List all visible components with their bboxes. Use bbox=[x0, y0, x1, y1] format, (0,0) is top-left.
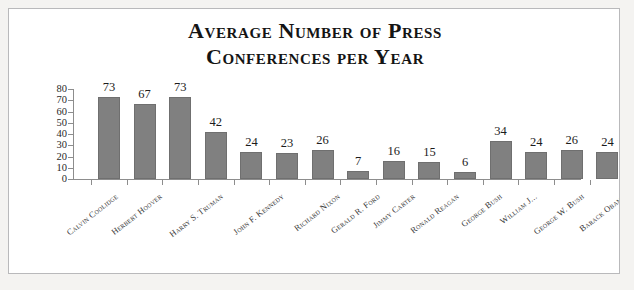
bar[interactable] bbox=[525, 152, 547, 179]
x-axis-tick-mark bbox=[269, 180, 270, 185]
bar-value-label: 24 bbox=[587, 136, 620, 149]
bar-value-label: 73 bbox=[160, 81, 200, 94]
plot-area: 80706050403020100 7367734224232671615634… bbox=[9, 9, 620, 274]
y-axis-tick-mark bbox=[68, 134, 73, 135]
y-axis-tick-label: 40 bbox=[45, 129, 67, 139]
bar-value-label: 26 bbox=[552, 134, 592, 147]
x-axis-line bbox=[73, 179, 581, 180]
bar-value-label: 16 bbox=[374, 145, 414, 158]
bar[interactable] bbox=[347, 171, 369, 179]
bar[interactable] bbox=[240, 152, 262, 179]
bar-value-label: 34 bbox=[481, 125, 521, 138]
bar[interactable] bbox=[383, 161, 405, 179]
bar[interactable] bbox=[561, 150, 583, 179]
bar[interactable] bbox=[454, 172, 476, 179]
y-axis-tick-mark bbox=[68, 100, 73, 101]
y-axis-tick-label: 0 bbox=[45, 174, 67, 184]
x-axis-tick-mark bbox=[518, 180, 519, 185]
x-axis-tick-mark bbox=[234, 180, 235, 185]
y-axis-tick-mark bbox=[68, 157, 73, 158]
x-axis-tick-mark bbox=[127, 180, 128, 185]
y-axis-tick-label: 30 bbox=[45, 140, 67, 150]
bar-value-label: 24 bbox=[231, 136, 271, 149]
bar-value-label: 23 bbox=[267, 137, 307, 150]
bar[interactable] bbox=[169, 97, 191, 179]
x-axis-tick-mark bbox=[554, 180, 555, 185]
y-axis-tick-mark bbox=[68, 89, 73, 90]
y-axis-tick-mark bbox=[68, 168, 73, 169]
bar-value-label: 67 bbox=[125, 88, 165, 101]
x-axis-tick-mark bbox=[162, 180, 163, 185]
y-axis-tick-label: 10 bbox=[45, 163, 67, 173]
y-axis-tick-mark bbox=[68, 123, 73, 124]
bar[interactable] bbox=[134, 104, 156, 179]
bar-value-label: 24 bbox=[516, 136, 556, 149]
bar-value-label: 15 bbox=[409, 146, 449, 159]
y-axis-tick-mark bbox=[68, 112, 73, 113]
y-axis-tick-label: 60 bbox=[45, 107, 67, 117]
bar[interactable] bbox=[276, 153, 298, 179]
bar[interactable] bbox=[418, 162, 440, 179]
bar-value-label: 7 bbox=[338, 155, 378, 168]
bar[interactable] bbox=[98, 97, 120, 179]
bar[interactable] bbox=[596, 152, 618, 179]
x-axis-tick-mark bbox=[305, 180, 306, 185]
bar[interactable] bbox=[312, 150, 334, 179]
bar-value-label: 6 bbox=[445, 156, 485, 169]
x-axis-tick-mark bbox=[412, 180, 413, 185]
bar-value-label: 42 bbox=[196, 116, 236, 129]
x-axis-tick-mark bbox=[447, 180, 448, 185]
x-axis-tick-mark bbox=[91, 180, 92, 185]
x-axis-tick-mark bbox=[590, 180, 591, 185]
bar-value-label: 73 bbox=[89, 81, 129, 94]
bar-value-label: 26 bbox=[303, 134, 343, 147]
y-axis-tick-label: 70 bbox=[45, 95, 67, 105]
x-axis-tick-mark bbox=[483, 180, 484, 185]
bar[interactable] bbox=[490, 141, 512, 179]
y-axis-line bbox=[73, 89, 74, 180]
x-axis-tick-mark bbox=[340, 180, 341, 185]
x-axis-tick-mark bbox=[198, 180, 199, 185]
chart-frame: Average Number of Press Conferences per … bbox=[8, 8, 620, 274]
y-axis-tick-mark bbox=[68, 145, 73, 146]
x-axis-tick-mark bbox=[376, 180, 377, 185]
y-axis-tick-label: 50 bbox=[45, 118, 67, 128]
bar[interactable] bbox=[205, 132, 227, 179]
y-axis-tick-label: 80 bbox=[45, 84, 67, 94]
y-axis-tick-mark bbox=[68, 179, 73, 180]
y-axis-tick-label: 20 bbox=[45, 152, 67, 162]
